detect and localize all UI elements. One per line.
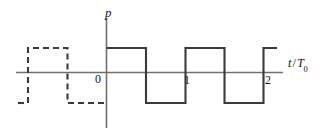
x-tick-label-1: 1 [184, 74, 190, 86]
x-tick-label-2: 2 [265, 74, 271, 86]
x-axis-label-t-over-T0: t/T0 [288, 57, 308, 72]
figure-canvas [0, 0, 327, 135]
dashed-waveform [18, 48, 107, 103]
solid-waveform-path [107, 48, 278, 103]
x-tick-label-0: 0 [95, 73, 101, 85]
y-axis-label-p: p [105, 6, 112, 19]
square-wave-figure: p 0 1 2 t/T0 [0, 0, 327, 135]
x-axis-label-unit-subscript: 0 [303, 64, 307, 74]
